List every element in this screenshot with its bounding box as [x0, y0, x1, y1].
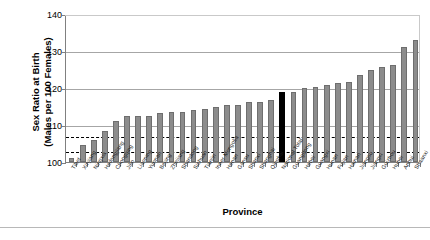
- bar-hainan: [346, 82, 352, 162]
- bar-fujian: [335, 83, 341, 162]
- gridline-120: [66, 89, 420, 90]
- y-tick-mark-140: [62, 15, 66, 16]
- x-axis-title: Province: [65, 206, 420, 217]
- y-axis-title-wrapper: Sex Ratio at Birth (Males per 100 Female…: [0, 10, 34, 170]
- y-tick-mark-130: [62, 52, 66, 53]
- bar-jiangxi: [368, 70, 374, 163]
- gridline-140: [66, 15, 420, 16]
- bar-jiangsu: [357, 75, 363, 162]
- reference-line-107: [66, 137, 420, 138]
- bar-liaoning: [135, 116, 141, 162]
- gridline-130: [66, 52, 420, 53]
- y-tick-label-140: 140: [36, 11, 62, 20]
- bar-shaanxi: [413, 40, 419, 162]
- footer-divider: [0, 227, 430, 228]
- y-tick-label-100: 100: [36, 159, 62, 168]
- y-tick-mark-120: [62, 89, 66, 90]
- bar-anhui: [401, 47, 407, 162]
- bar-guangxi: [313, 87, 319, 162]
- y-tick-label-110: 110: [36, 122, 62, 131]
- y-axis-tick-labels: 100110120130140: [36, 0, 62, 240]
- gridline-110: [66, 126, 420, 127]
- bar-hubei: [390, 65, 396, 162]
- sex-ratio-bar-chart: Sex Ratio at Birth (Males per 100 Female…: [0, 0, 430, 240]
- bar-guizhou: [379, 67, 385, 162]
- y-tick-label-130: 130: [36, 48, 62, 57]
- y-tick-mark-110: [62, 126, 66, 127]
- y-tick-label-120: 120: [36, 85, 62, 94]
